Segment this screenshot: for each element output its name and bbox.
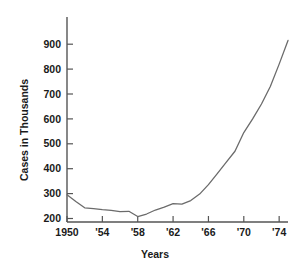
y-axis-tick-label: 200 xyxy=(43,212,61,224)
data-series-line xyxy=(67,40,288,216)
y-axis-tick-labels: 200300400500600700800900 xyxy=(43,38,61,224)
y-axis-tick-label: 700 xyxy=(43,88,61,100)
x-axis-tick-label: '66 xyxy=(201,226,215,238)
y-axis-tick-label: 900 xyxy=(43,38,61,50)
x-axis-tick-label: '70 xyxy=(237,226,251,238)
x-axis-tick-label: '58 xyxy=(131,226,145,238)
y-axis-tick-label: 300 xyxy=(43,187,61,199)
y-axis-tick-label: 800 xyxy=(43,63,61,75)
chart-canvas: 200300400500600700800900 1950'54'58'62'6… xyxy=(0,0,292,270)
x-axis-tick-label: '62 xyxy=(166,226,180,238)
y-axis-tick-label: 400 xyxy=(43,162,61,174)
x-axis-tick-labels: 1950'54'58'62'66'70'74 xyxy=(55,226,286,238)
y-axis-title: Cases in Thousands xyxy=(18,79,30,181)
x-axis-ticks xyxy=(67,216,279,222)
line-chart: 200300400500600700800900 1950'54'58'62'6… xyxy=(0,0,292,270)
x-axis-tick-label: '54 xyxy=(95,226,109,238)
y-axis-ticks xyxy=(67,44,73,218)
y-axis-tick-label: 500 xyxy=(43,137,61,149)
x-axis-title: Years xyxy=(141,248,169,260)
x-axis-tick-label: 1950 xyxy=(55,226,79,238)
x-axis-tick-label: '74 xyxy=(272,226,286,238)
y-axis-tick-label: 600 xyxy=(43,113,61,125)
